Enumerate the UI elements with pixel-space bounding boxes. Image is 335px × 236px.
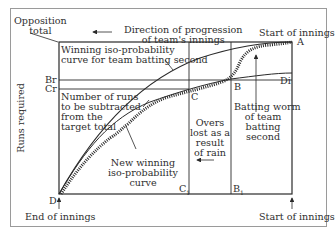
runs-subtracted-label: Number of runs to be subtracted from the… (61, 92, 141, 132)
end-of-innings-label: End of innings (25, 212, 96, 222)
winning-curve-label: Winning iso-probability curve for team b… (61, 45, 208, 65)
batting-worm-label: Batting worm of team batting second (234, 102, 292, 142)
opposition-total-label: Opposition total (14, 16, 67, 36)
start-of-innings-bottom-label: Start of innings (259, 212, 335, 222)
point-b1-label: B1 (233, 184, 244, 198)
point-d-label: D (49, 196, 57, 206)
cr-label: Cr (45, 84, 57, 94)
y-axis-label: Runs required (15, 83, 26, 153)
point-di-label: Di (280, 76, 291, 86)
point-b-label: B (234, 82, 241, 92)
point-c1-label: C1 (179, 184, 190, 198)
overs-lost-label: Overs lost as a result of rain (190, 118, 230, 158)
new-winning-curve-label: New winning iso-probability curve (108, 158, 178, 188)
point-a-label: A (297, 37, 304, 47)
direction-label: Direction of progression of team's innin… (124, 25, 242, 45)
point-c-label: C (191, 92, 198, 102)
subtract-pointer (143, 100, 149, 107)
